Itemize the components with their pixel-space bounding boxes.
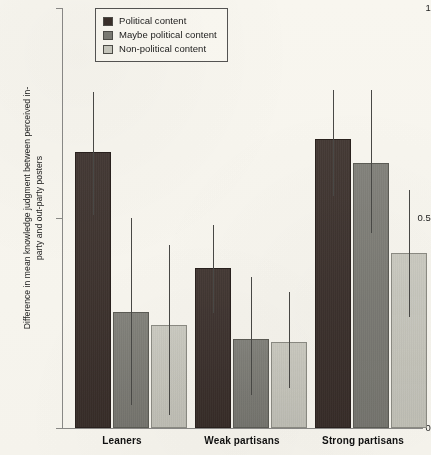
legend-swatch-icon-non-political-content <box>103 45 113 54</box>
x-axis-group-label-strong-partisans: Strong partisans <box>303 435 423 446</box>
legend-item-non-political-content: Non-political content <box>103 42 217 56</box>
error-bar-leaners-non-political-content <box>169 245 170 415</box>
legend-item-political-content: Political content <box>103 14 217 28</box>
error-bar-strong-partisans-maybe-political-content <box>371 90 372 233</box>
legend-label-maybe-political-content: Maybe political content <box>119 29 217 41</box>
legend-swatch-icon-political-content <box>103 17 113 26</box>
error-bar-leaners-political-content <box>93 92 94 215</box>
bar-chart: 1 0.5 0 Difference in mean knowledge jud… <box>0 0 431 455</box>
legend-swatch-icon-maybe-political-content <box>103 31 113 40</box>
x-axis-group-label-leaners: Leaners <box>63 435 181 446</box>
plot-area <box>0 0 431 455</box>
legend-item-maybe-political-content: Maybe political content <box>103 28 217 42</box>
legend: Political content Maybe political conten… <box>95 8 228 62</box>
x-axis-group-label-weak-partisans: Weak partisans <box>183 435 301 446</box>
error-bar-strong-partisans-political-content <box>333 90 334 196</box>
error-bar-weak-partisans-political-content <box>213 225 214 313</box>
error-bar-leaners-maybe-political-content <box>131 218 132 405</box>
error-bar-weak-partisans-non-political-content <box>289 292 290 388</box>
error-bar-strong-partisans-non-political-content <box>409 190 410 317</box>
legend-label-non-political-content: Non-political content <box>119 43 206 55</box>
error-bar-weak-partisans-maybe-political-content <box>251 277 252 395</box>
legend-label-political-content: Political content <box>119 15 186 27</box>
